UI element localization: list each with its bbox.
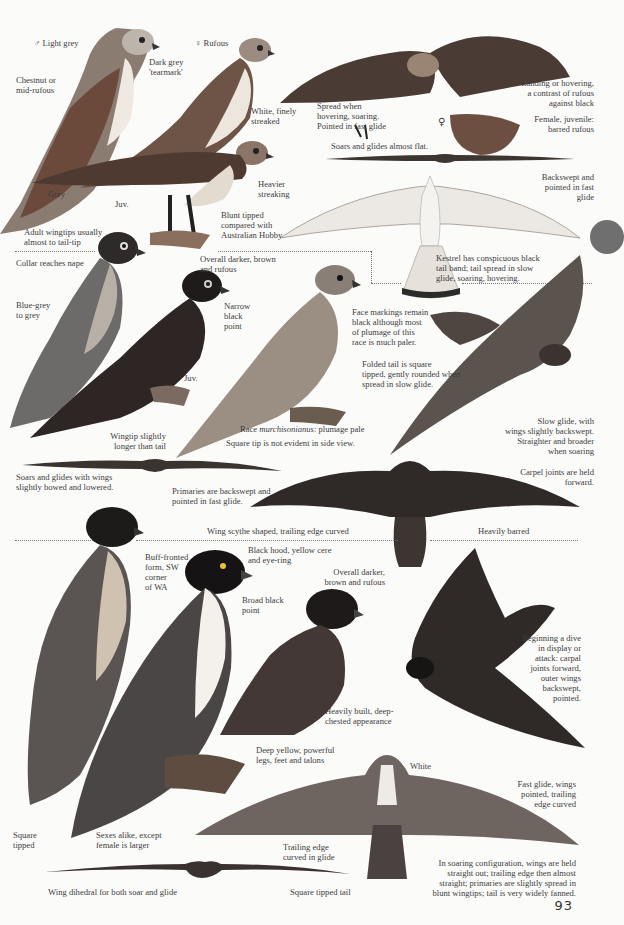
label-backswept: Backswept and pointed in fast glide bbox=[542, 172, 594, 202]
female-symbol: ♀ bbox=[438, 117, 445, 127]
label-chestnut: Chestnut or mid-rufous bbox=[16, 75, 56, 95]
label-fast-glide: Fast glide, wings pointed, trailing edge… bbox=[518, 779, 577, 809]
label-juv-kestrel: Juv. bbox=[115, 199, 129, 209]
label-slow-glide: Slow glide, with wings slightly backswep… bbox=[505, 416, 594, 456]
label-soars-flat: Soars and glides almost flat. bbox=[331, 141, 428, 151]
label-female-juvenile: Female, juvenile: barred rufous bbox=[534, 114, 594, 134]
label-folded-tail: Folded tail is square tipped, gently rou… bbox=[362, 359, 460, 389]
label-deep-yellow: Deep yellow, powerful legs, feet and tal… bbox=[256, 745, 334, 765]
label-juv-peregrine: Juv. bbox=[290, 714, 304, 724]
label-female-rufous: ♀ Rufous bbox=[195, 38, 228, 48]
kestrel-head-on-flight-illustration bbox=[325, 152, 575, 166]
label-white: White bbox=[410, 761, 431, 771]
label-sexes-alike: Sexes alike, except female is larger bbox=[96, 830, 162, 850]
page-number: 93 bbox=[554, 898, 573, 913]
label-heavily-barred: Heavily barred bbox=[478, 526, 529, 536]
label-trailing-edge: Trailing edge curved in glide bbox=[283, 842, 335, 862]
label-narrow-black-point: Narrow black point bbox=[224, 301, 250, 331]
divider-hobby-peregrine-right bbox=[430, 540, 578, 541]
label-spread-hovering: Spread when hovering, soaring. Pointed i… bbox=[317, 101, 386, 131]
label-square-tip-side: Square tip is not evident in side view. bbox=[226, 438, 355, 448]
label-grey: Grey bbox=[48, 189, 65, 199]
label-dihedral: Wing dihedral for both soar and glide bbox=[48, 887, 177, 897]
label-blunt-tipped: Blunt tipped compared with Australian Ho… bbox=[221, 210, 282, 240]
race-name: murchisonianus bbox=[259, 424, 314, 434]
section-thumb-tab bbox=[590, 220, 624, 254]
label-buff-fronted: Buff-fronted form, SW corner of WA bbox=[145, 552, 188, 592]
label-overall-darker-hobby: Overall darker, brown and rufous bbox=[200, 254, 276, 274]
label-collar-nape: Collar reaches nape bbox=[16, 258, 84, 268]
label-heavily-built: Heavily built, deep- chested appearance bbox=[325, 706, 394, 726]
label-overall-darker-peregrine: Overall darker, brown and rufous bbox=[290, 567, 385, 587]
label-soaring-config: In soaring configuration, wings are held… bbox=[433, 858, 576, 898]
divider-hobby-peregrine-mid bbox=[136, 540, 398, 541]
divider-kestrel-hobby-step bbox=[371, 251, 372, 283]
label-soars-bowed: Soars and glides with wings slightly bow… bbox=[16, 472, 113, 492]
race-prefix: Race bbox=[240, 424, 259, 434]
divider-kestrel-hobby-mid bbox=[218, 251, 371, 252]
label-wingtip-longer: Wingtip slightly longer than tail bbox=[110, 431, 166, 451]
label-blue-grey: Blue-grey to grey bbox=[16, 300, 50, 320]
label-landing-hovering: Landing or hovering, a contrast of rufou… bbox=[521, 78, 594, 108]
label-male-light-grey: ♂ Light grey bbox=[34, 38, 79, 48]
label-race-murchisonianus: Race murchisonianus: plumage pale bbox=[240, 414, 365, 434]
label-face-markings: Face markings remain black although most… bbox=[352, 307, 428, 347]
label-wing-scythe: Wing scythe shaped, trailing edge curved bbox=[207, 526, 349, 536]
label-square-tipped: Square tipped bbox=[13, 830, 37, 850]
race-suffix: : plumage pale bbox=[314, 424, 365, 434]
label-carpel-joints: Carpel joints are held forward. bbox=[520, 467, 594, 487]
label-dive: Beginning a dive in display or attack: c… bbox=[522, 633, 581, 703]
label-primaries-backswept: Primaries are backswept and pointed in f… bbox=[172, 486, 271, 506]
peregrine-head-on-flight-illustration bbox=[45, 860, 350, 880]
label-square-tail: Square tipped tail bbox=[290, 887, 351, 897]
label-black-hood: Black hood, yellow cere and eye-ring bbox=[248, 545, 332, 565]
label-heavier-streaking: Heavier streaking bbox=[258, 179, 290, 199]
label-tearmark: Dark grey 'tearmark' bbox=[149, 57, 184, 77]
label-white-streaked: White, finely streaked bbox=[251, 106, 296, 126]
label-broad-black-point: Broad black point bbox=[242, 595, 284, 615]
label-juv-hobby: Juv. bbox=[184, 373, 198, 383]
